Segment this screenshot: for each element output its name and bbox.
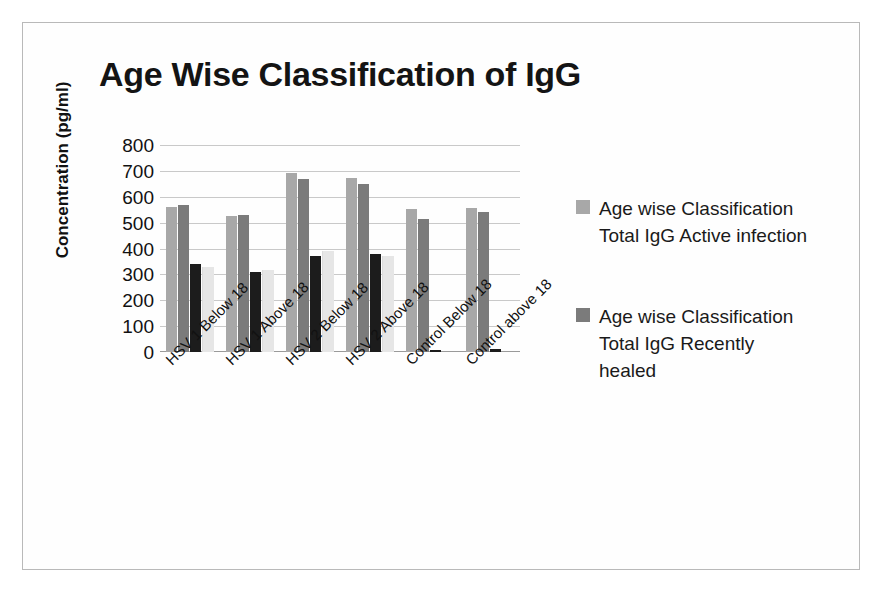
legend-label: Age wise Classification Total IgG Active… [599, 196, 814, 250]
bar[interactable] [358, 184, 369, 352]
y-tick-label: 0 [92, 343, 154, 362]
y-tick-label: 200 [92, 291, 154, 310]
chart-page: Age Wise Classification of IgG Concentra… [0, 0, 886, 598]
bar[interactable] [298, 179, 309, 352]
y-tick-label: 600 [92, 188, 154, 207]
y-tick-label: 500 [92, 214, 154, 233]
y-tick-label: 300 [92, 265, 154, 284]
legend-swatch-icon [576, 308, 590, 322]
bar[interactable] [466, 208, 477, 352]
chart-legend: Age wise Classification Total IgG Active… [576, 196, 826, 439]
y-axis-ticks: 8007006005004003002001000 [92, 145, 154, 352]
legend-item[interactable]: Age wise Classification Total IgG Recent… [576, 304, 826, 385]
bar[interactable] [346, 178, 357, 352]
bar[interactable] [286, 173, 297, 352]
bar[interactable] [166, 207, 177, 352]
y-tick-label: 800 [92, 136, 154, 155]
y-axis-title: Concentration (pg/ml) [53, 45, 73, 295]
y-tick-label: 700 [92, 162, 154, 181]
y-tick-label: 100 [92, 317, 154, 336]
chart-title: Age Wise Classification of IgG [60, 55, 620, 94]
legend-swatch-icon [576, 200, 590, 214]
y-tick-label: 400 [92, 240, 154, 259]
bar[interactable] [406, 209, 417, 352]
legend-label: Age wise Classification Total IgG Recent… [599, 304, 814, 385]
legend-item[interactable]: Age wise Classification Total IgG Active… [576, 196, 826, 250]
